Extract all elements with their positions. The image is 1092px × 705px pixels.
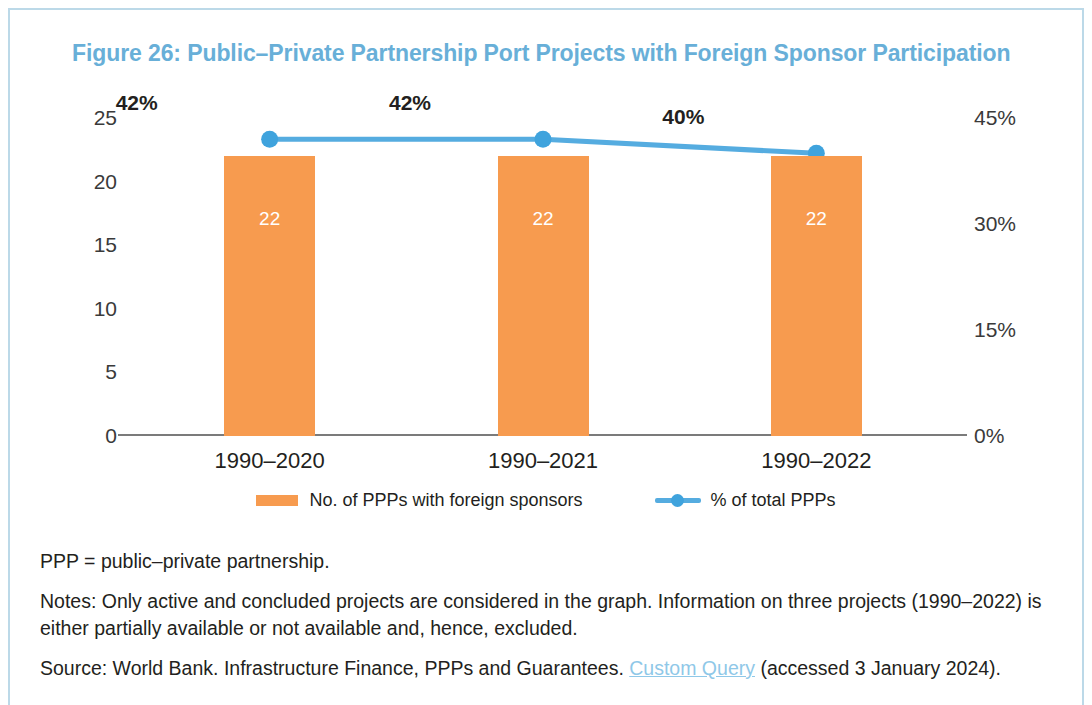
bar[interactable]: 22 xyxy=(224,156,315,436)
bar-value-label: 22 xyxy=(224,208,315,230)
figure-frame-left xyxy=(8,8,10,705)
left-axis-tick-label: 15 xyxy=(94,233,117,257)
legend-line-marker-icon xyxy=(655,493,701,507)
note-abbreviation: PPP = public–private partnership. xyxy=(40,548,1054,576)
line-point-marker[interactable] xyxy=(261,131,278,148)
right-axis-tick-label: 45% xyxy=(974,106,1016,130)
line-value-label: 42% xyxy=(389,91,431,115)
bar[interactable]: 22 xyxy=(498,156,589,436)
plot-area: 222222 xyxy=(133,118,953,436)
figure-frame-right xyxy=(1082,8,1084,705)
bar[interactable]: 22 xyxy=(771,156,862,436)
right-y-axis: 0%15%30%45% xyxy=(974,118,1064,436)
bar-value-label: 22 xyxy=(771,208,862,230)
x-axis-tick-label: 1990–2022 xyxy=(761,448,871,474)
left-axis-tick-label: 25 xyxy=(94,106,117,130)
custom-query-link[interactable]: Custom Query xyxy=(629,657,755,679)
legend-item-bars[interactable]: No. of PPPs with foreign sponsors xyxy=(256,489,582,511)
x-axis-tick-label: 1990–2020 xyxy=(215,448,325,474)
right-axis-tick-label: 0% xyxy=(974,424,1004,448)
axis-baseline-right-stub xyxy=(953,434,967,436)
note-body: Notes: Only active and concluded project… xyxy=(40,588,1054,643)
line-value-label: 42% xyxy=(116,91,158,115)
right-axis-tick-label: 15% xyxy=(974,318,1016,342)
source-prefix: Source: World Bank. Infrastructure Finan… xyxy=(40,657,629,679)
figure-frame-top xyxy=(8,8,1084,10)
bar-value-label: 22 xyxy=(498,208,589,230)
line-point-marker[interactable] xyxy=(535,131,552,148)
note-source: Source: World Bank. Infrastructure Finan… xyxy=(40,655,1054,683)
line-value-label: 40% xyxy=(662,105,704,129)
figure-container: Figure 26: Public–Private Partnership Po… xyxy=(0,0,1092,705)
legend-label-bars: No. of PPPs with foreign sponsors xyxy=(309,490,582,510)
x-axis-tick-label: 1990–2021 xyxy=(488,448,598,474)
left-axis-tick-label: 10 xyxy=(94,297,117,321)
figure-title: Figure 26: Public–Private Partnership Po… xyxy=(72,40,1052,67)
chart-legend: No. of PPPs with foreign sponsors % of t… xyxy=(0,489,1092,511)
legend-label-line: % of total PPPs xyxy=(711,490,836,510)
legend-item-line[interactable]: % of total PPPs xyxy=(655,489,836,511)
source-suffix: (accessed 3 January 2024). xyxy=(755,657,1001,679)
left-axis-tick-label: 5 xyxy=(105,360,117,384)
right-axis-tick-label: 30% xyxy=(974,212,1016,236)
left-axis-tick-label: 20 xyxy=(94,170,117,194)
left-y-axis: 0510152025 xyxy=(55,118,117,436)
legend-bar-swatch-icon xyxy=(256,495,298,506)
figure-notes: PPP = public–private partnership. Notes:… xyxy=(40,548,1054,683)
left-axis-tick-label: 0 xyxy=(105,424,117,448)
axis-baseline-left-stub xyxy=(118,434,134,436)
